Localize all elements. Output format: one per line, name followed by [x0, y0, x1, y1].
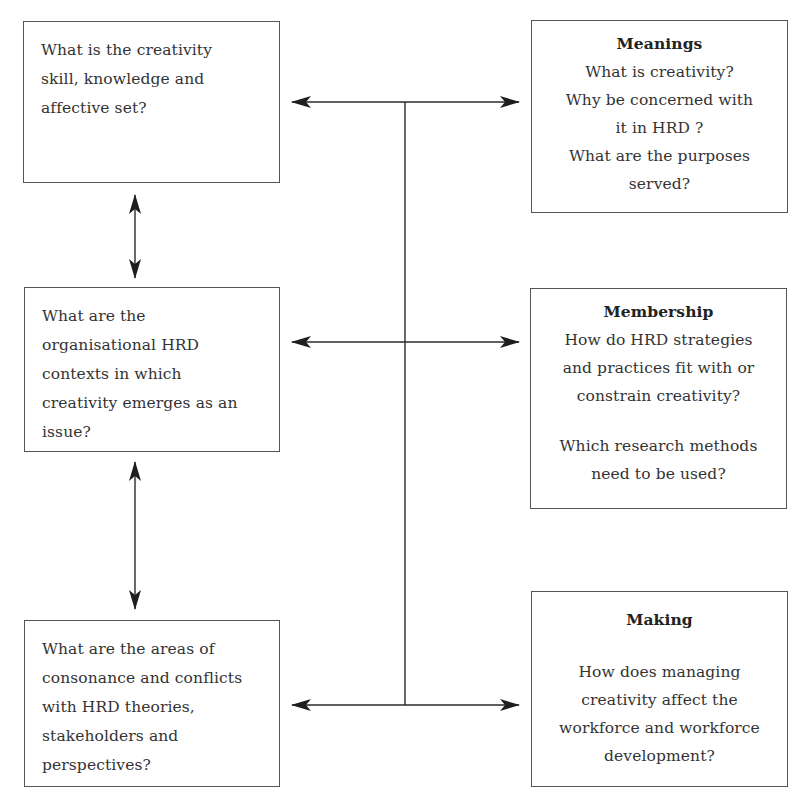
box-line: contexts in which [42, 360, 261, 389]
box-line: workforce and workforce [538, 714, 781, 742]
box-line: What are the purposes [538, 142, 781, 170]
box-line: What is the creativity [41, 36, 261, 65]
box-skill-knowledge-affective: What is the creativity skill, knowledge … [23, 21, 280, 183]
box-consonance-conflicts: What are the areas of consonance and con… [24, 620, 280, 787]
box-title-membership: Membership [537, 298, 780, 326]
box-line: constrain creativity? [537, 382, 780, 410]
box-line: served? [538, 170, 781, 198]
box-line: need to be used? [537, 460, 780, 488]
box-line: skill, knowledge and [41, 65, 261, 94]
box-line: What is creativity? [538, 58, 781, 86]
box-line: with HRD theories, [42, 693, 261, 722]
box-membership: Membership How do HRD strategies and pra… [530, 288, 787, 509]
box-title-making: Making [538, 606, 781, 634]
box-line: What are the [42, 302, 261, 331]
box-title-meanings: Meanings [538, 30, 781, 58]
box-line: creativity emerges as an [42, 389, 261, 418]
box-line-spacer [538, 634, 781, 658]
box-line: How does managing [538, 658, 781, 686]
box-line: development? [538, 742, 781, 770]
box-line: affective set? [41, 94, 261, 123]
box-line: Why be concerned with [538, 86, 781, 114]
box-line: How do HRD strategies [537, 326, 780, 354]
box-line: stakeholders and [42, 722, 261, 751]
box-line: What are the areas of [42, 635, 261, 664]
box-line: issue? [42, 418, 261, 447]
box-line-spacer [537, 410, 780, 432]
box-organisational-contexts: What are the organisational HRD contexts… [24, 287, 280, 452]
box-meanings: Meanings What is creativity? Why be conc… [531, 20, 788, 213]
box-line: organisational HRD [42, 331, 261, 360]
box-line: consonance and conflicts [42, 664, 261, 693]
box-line: perspectives? [42, 751, 261, 780]
box-line: and practices fit with or [537, 354, 780, 382]
box-line: creativity affect the [538, 686, 781, 714]
box-making: Making How does managing creativity affe… [531, 591, 788, 787]
box-line: Which research methods [537, 432, 780, 460]
box-line: it in HRD ? [538, 114, 781, 142]
